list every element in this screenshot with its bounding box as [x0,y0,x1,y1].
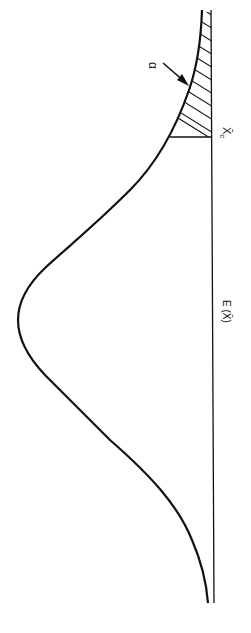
hatched-tail-region [160,0,215,141]
critical-value-label: X̄c [218,127,233,138]
alpha-label: α [146,62,160,69]
density-curve [18,10,208,603]
alpha-arrow [163,63,189,86]
normal-distribution-diagram: α X̄c E (X̄) [0,0,251,633]
baseline-axis [211,10,214,603]
mean-label: E (X̄) [221,300,233,323]
